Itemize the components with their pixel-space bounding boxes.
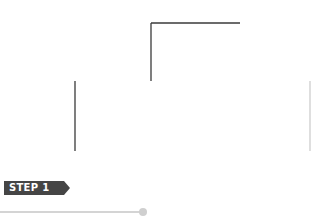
progress-track (0, 211, 143, 213)
step-label: STEP 1 (9, 182, 49, 193)
progress-knob[interactable] (139, 208, 147, 216)
main-body-outline (75, 81, 310, 151)
step-badge: STEP 1 (4, 181, 64, 195)
